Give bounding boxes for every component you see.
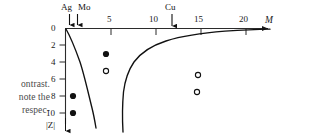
data-points-open — [103, 68, 200, 94]
x-tick-label-5: 5 — [107, 14, 112, 24]
y-tick-label-6: 6 — [51, 74, 56, 84]
y-axis-title: |Z| — [46, 120, 55, 130]
y-tick-label-10: 10 — [46, 108, 55, 118]
y-tick-label-0: 0 — [51, 23, 56, 33]
x-tick-label-10: 10 — [149, 14, 158, 24]
x-tick-label-15: 15 — [194, 14, 203, 24]
x-tick-label-20: 20 — [239, 14, 248, 24]
x-axis-title: M — [265, 15, 273, 25]
element-label-cu: Cu — [165, 2, 176, 12]
element-label-ag: Ag — [61, 2, 72, 12]
curve-right-branch — [123, 29, 270, 132]
y-tick-label-8: 8 — [51, 91, 56, 101]
data-points-filled — [70, 51, 109, 116]
element-label-mo: Mo — [78, 2, 91, 12]
y-tick-label-2: 2 — [51, 40, 56, 50]
y-tick-label-4: 4 — [51, 57, 56, 67]
y-axis-ticks — [60, 45, 66, 113]
